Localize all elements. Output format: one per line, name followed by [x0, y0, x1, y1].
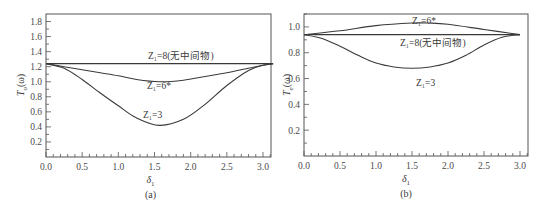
x-tick-label: 1.5 [406, 161, 418, 171]
x-tick-label: 1.0 [370, 161, 382, 171]
x-tick-label: 1.5 [149, 162, 161, 172]
y-tick-label: 0.8 [30, 92, 42, 102]
x-tick-label: 0.0 [298, 161, 310, 171]
y-tick-label: 0.4 [30, 122, 42, 132]
x-tick-label: 2.5 [478, 161, 490, 171]
x-tick-label: 2.0 [442, 161, 454, 171]
y-tick-label: 0.4 [288, 100, 300, 110]
curve-label-z6: Z₁=6* [412, 16, 436, 26]
panel-a: 0.00.51.01.52.02.53.00.20.40.60.81.01.21… [15, 14, 273, 201]
curve-label-z3: Z₁=3 [416, 78, 435, 88]
curve-label-z3: Z₁=3 [143, 110, 162, 120]
y-tick-label: 1.0 [30, 77, 42, 87]
curve-z1-6 [46, 64, 273, 82]
x-tick-label: 0.0 [40, 162, 52, 172]
panel-b: 0.00.51.01.52.02.53.00.20.40.60.81.0Z₁=6… [281, 14, 528, 200]
x-axis: 0.00.51.01.52.02.53.0 [40, 152, 270, 172]
y-tick-label: 0.6 [30, 107, 42, 117]
y-tick-label: 1.2 [30, 62, 42, 72]
y-tick-label: 0.2 [288, 126, 300, 136]
curve-label-z8: Z₁=8(无中间物) [400, 37, 466, 49]
x-axis-title: δ1 [146, 174, 155, 188]
y-tick-label: 0.8 [288, 48, 300, 58]
y-tick-label: 0.2 [30, 137, 42, 147]
y-tick-label: 1.8 [30, 17, 42, 27]
y-tick-label: 1.0 [288, 22, 300, 32]
x-axis: 0.00.51.01.52.02.53.0 [298, 151, 527, 171]
panel-caption: (a) [145, 189, 156, 201]
x-tick-label: 0.5 [334, 161, 346, 171]
figure: 0.00.51.01.52.02.53.00.20.40.60.81.01.21… [0, 0, 541, 207]
curve-label-z8: Z₁=8(无中间物) [148, 50, 214, 62]
y-tick-label: 1.4 [30, 47, 42, 57]
x-tick-label: 3.0 [514, 161, 526, 171]
curve-label-z6: Z₁=6* [147, 81, 171, 91]
panel-caption: (b) [400, 188, 412, 200]
y-axis-title: To(ω) [15, 74, 29, 96]
x-tick-label: 3.0 [257, 162, 269, 172]
x-tick-label: 1.0 [112, 162, 124, 172]
x-tick-label: 2.5 [221, 162, 233, 172]
y-axis: 0.20.40.60.81.01.21.41.61.8 [30, 17, 51, 149]
x-axis-title: δ1 [402, 173, 411, 187]
y-tick-label: 1.6 [30, 32, 42, 42]
x-tick-label: 0.5 [76, 162, 88, 172]
x-tick-label: 2.0 [185, 162, 197, 172]
